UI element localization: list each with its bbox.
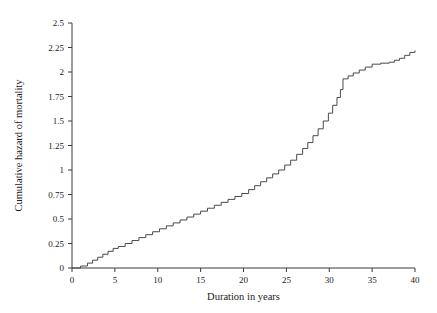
x-tick-label: 35 [368,275,378,285]
x-tick-label: 20 [239,275,249,285]
cumulative-hazard-step-chart: 00.250.50.7511.251.51.7522.252.5 0510152… [0,0,437,313]
x-tick-label: 40 [411,275,421,285]
x-tick-label: 15 [196,275,206,285]
y-tick-label: 0.25 [48,239,64,249]
x-tick-label: 0 [70,275,75,285]
y-tick-label: 2.25 [48,43,64,53]
y-tick-label: 0.75 [48,190,64,200]
y-tick-label: 2.5 [53,18,65,28]
y-tick-label: 0 [60,263,65,273]
y-axis-title: Cumulative hazard of mortality [13,79,24,212]
x-axis-title: Duration in years [207,291,280,302]
y-tick-label: 2 [60,67,65,77]
y-tick-label: 0.5 [53,214,65,224]
x-tick-label: 25 [282,275,292,285]
x-tick-label: 30 [325,275,335,285]
y-tick-label: 1.25 [48,141,64,151]
x-tick-label: 5 [113,275,118,285]
chart-background [0,0,437,313]
y-tick-label: 1.75 [48,92,64,102]
y-tick-label: 1.5 [53,116,65,126]
x-tick-label: 10 [153,275,163,285]
chart-figure: 00.250.50.7511.251.51.7522.252.5 0510152… [0,0,437,313]
y-tick-label: 1 [60,165,65,175]
